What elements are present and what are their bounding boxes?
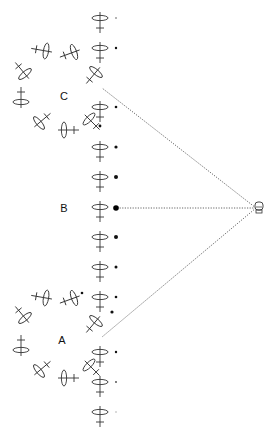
marker-dot [113, 205, 119, 211]
label-b: B [60, 202, 67, 214]
marker-dot [110, 310, 113, 313]
spinning-top-glyph-icon [57, 42, 82, 64]
marker-dot [115, 296, 118, 299]
spinning-top-glyph-icon [13, 87, 29, 108]
spinning-top-glyph-icon [92, 171, 108, 192]
spinning-top-glyph-icon [58, 370, 79, 386]
spinning-top-glyph-icon [30, 288, 53, 307]
spinning-top-glyph-icon [92, 291, 108, 312]
glyph-group [9, 12, 108, 427]
spinning-top-glyph-icon [92, 141, 108, 162]
marker-dot [114, 235, 118, 239]
spinning-top-glyph-icon [92, 376, 108, 397]
spinning-top-glyph-icon [92, 42, 108, 63]
label-a: A [58, 334, 65, 346]
marker-dot [99, 125, 102, 128]
spinning-top-glyph-icon [92, 406, 108, 427]
spinning-top-glyph-icon [92, 12, 108, 33]
spinning-top-glyph-icon [9, 57, 35, 83]
spinning-top-glyph-icon [80, 311, 106, 337]
spinning-top-glyph-icon [29, 107, 55, 133]
marker-dot [115, 381, 117, 383]
sight-line [102, 88, 256, 208]
marker-dot [114, 175, 118, 179]
observer-eye-icon [255, 202, 263, 213]
spinning-top-glyph-icon [29, 355, 55, 381]
spinning-top-glyph-icon [92, 231, 108, 252]
spinning-top-glyph-icon [79, 355, 105, 381]
spinning-top-glyph-icon [13, 335, 29, 356]
spinning-top-glyph-icon [92, 261, 108, 282]
spinning-top-glyph-icon [79, 109, 105, 135]
marker-dot [115, 351, 117, 353]
diagram-canvas [0, 0, 279, 443]
spinning-top-glyph-icon [9, 301, 35, 327]
marker-dot [81, 292, 84, 295]
spinning-top-glyph-icon [92, 346, 108, 367]
spinning-top-glyph-icon [80, 62, 106, 88]
spinning-top-glyph-icon [92, 201, 108, 222]
sight-line [102, 208, 256, 337]
marker-dot [115, 106, 118, 109]
spinning-top-glyph-icon [58, 122, 79, 138]
sight-lines [102, 88, 256, 337]
marker-dot [115, 411, 117, 413]
marker-dot [115, 266, 118, 269]
spinning-top-glyph-icon [57, 288, 82, 310]
marker-dot [114, 145, 117, 148]
marker-dot [115, 47, 117, 49]
marker-dot [115, 17, 117, 19]
spinning-top-glyph-icon [92, 101, 108, 122]
spinning-top-glyph-icon [30, 41, 53, 60]
label-c: C [60, 90, 68, 102]
